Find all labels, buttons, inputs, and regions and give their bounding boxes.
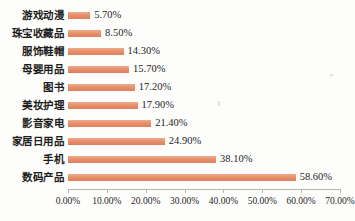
category-label: 珠宝收藏品	[0, 24, 64, 42]
category-label: 图书	[0, 78, 64, 96]
scan-artifact	[218, 101, 220, 106]
bar-value-label: 8.50%	[101, 24, 132, 42]
bar	[68, 138, 165, 145]
x-axis-line	[68, 189, 340, 190]
bar-track: 15.70%	[68, 60, 347, 78]
category-label: 影音家电	[0, 114, 64, 132]
bar-value-label: 38.10%	[216, 150, 252, 168]
bar-value-label: 24.90%	[165, 132, 201, 150]
category-label: 家居日用品	[0, 132, 64, 150]
bar-value-label: 17.20%	[135, 78, 171, 96]
bar-value-label: 5.70%	[90, 6, 121, 24]
bar	[68, 84, 135, 91]
bar-track: 5.70%	[68, 6, 347, 24]
bar-row: 美妆护理17.90%	[0, 96, 347, 114]
x-axis-tick	[223, 189, 224, 193]
x-axis-tick-label: 60.00%	[286, 195, 315, 207]
bar-row: 图书17.20%	[0, 78, 347, 96]
bar	[68, 120, 151, 127]
x-axis-tick-label: 40.00%	[209, 195, 238, 207]
category-label: 美妆护理	[0, 96, 64, 114]
bar-track: 38.10%	[68, 150, 347, 168]
bar-track: 58.60%	[68, 168, 347, 186]
bar-row: 手机38.10%	[0, 150, 347, 168]
bar-track: 8.50%	[68, 24, 347, 42]
bar	[68, 174, 296, 181]
x-axis-tick-label: 50.00%	[248, 195, 277, 207]
plot-area: 游戏动漫5.70%珠宝收藏品8.50%服饰鞋帽14.30%母婴用品15.70%图…	[0, 6, 347, 186]
x-axis-tick	[262, 189, 263, 193]
category-label: 数码产品	[0, 168, 64, 186]
category-label: 手机	[0, 150, 64, 168]
bar-track: 24.90%	[68, 132, 347, 150]
bar	[68, 66, 129, 73]
x-axis-tick-label: 20.00%	[131, 195, 160, 207]
scan-artifact	[330, 74, 333, 76]
category-label: 母婴用品	[0, 60, 64, 78]
bar-row: 母婴用品15.70%	[0, 60, 347, 78]
bar-value-label: 17.90%	[138, 96, 174, 114]
bar	[68, 48, 124, 55]
bar-track: 17.90%	[68, 96, 347, 114]
x-axis-tick	[185, 189, 186, 193]
x-axis-tick	[340, 189, 341, 193]
bar-value-label: 58.60%	[296, 168, 332, 186]
bar-row: 珠宝收藏品8.50%	[0, 24, 347, 42]
bar-row: 数码产品58.60%	[0, 168, 347, 186]
bar	[68, 12, 90, 19]
x-axis-tick	[146, 189, 147, 193]
category-label: 服饰鞋帽	[0, 42, 64, 60]
x-axis-tick-label: 0.00%	[56, 195, 81, 207]
bar-row: 服饰鞋帽14.30%	[0, 42, 347, 60]
x-axis-tick	[68, 189, 69, 193]
x-axis-tick-label: 70.00%	[325, 195, 354, 207]
bar	[68, 156, 216, 163]
x-axis-tick-label: 30.00%	[170, 195, 199, 207]
bar-value-label: 14.30%	[124, 42, 160, 60]
x-axis-tick	[301, 189, 302, 193]
bar-track: 21.40%	[68, 114, 347, 132]
bar-row: 家居日用品24.90%	[0, 132, 347, 150]
bar-value-label: 15.70%	[129, 60, 165, 78]
bar	[68, 30, 101, 37]
bar-track: 14.30%	[68, 42, 347, 60]
bar-value-label: 21.40%	[151, 114, 187, 132]
bar-row: 影音家电21.40%	[0, 114, 347, 132]
x-axis-tick	[107, 189, 108, 193]
bar-track: 17.20%	[68, 78, 347, 96]
bar-row: 游戏动漫5.70%	[0, 6, 347, 24]
bar	[68, 102, 138, 109]
category-label: 游戏动漫	[0, 6, 64, 24]
x-axis-tick-label: 10.00%	[92, 195, 121, 207]
